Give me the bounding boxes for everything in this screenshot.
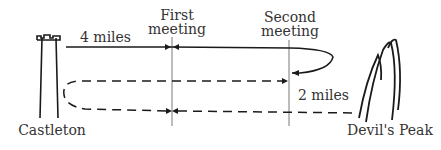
solid-route: [66, 44, 333, 76]
start-town-label: Castleton: [18, 122, 86, 138]
first-distance-label: 4 miles: [80, 29, 131, 45]
end-town-label: Devil's Peak: [347, 122, 433, 138]
first-meeting-label-line2: meeting: [148, 21, 206, 37]
second-meeting-label-line2: meeting: [261, 23, 319, 39]
tower-icon: [37, 35, 60, 118]
second-distance-label: 2 miles: [298, 87, 349, 103]
mountain-peaks-icon: [359, 40, 400, 122]
journey-diagram: 4 miles First meeting Second meeting 2 m…: [0, 0, 441, 150]
